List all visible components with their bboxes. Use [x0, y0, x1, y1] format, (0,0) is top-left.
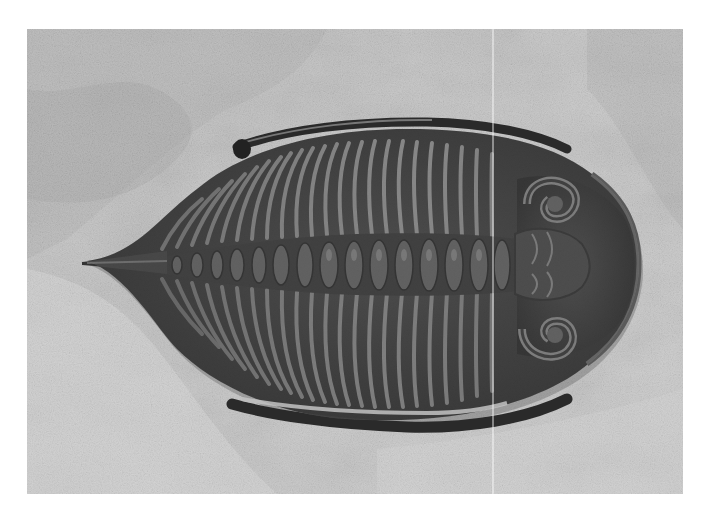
trilobite-fossil-photo	[27, 29, 683, 494]
